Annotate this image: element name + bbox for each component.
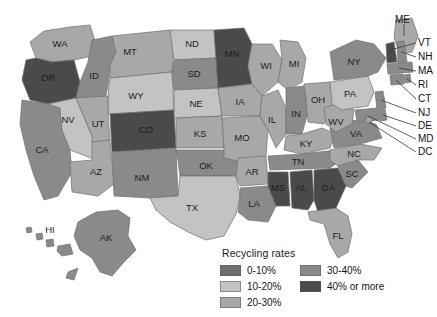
legend-column-right: 30-40% 40% or more	[300, 263, 384, 295]
legend-label-10-20: 10-20%	[247, 282, 281, 292]
legend-swatch-40-or-more	[300, 281, 321, 292]
legend-title: Recycling rates	[222, 247, 295, 259]
state-AL[interactable]	[290, 170, 314, 210]
state-CO[interactable]	[110, 110, 176, 152]
callout-line-DE	[383, 115, 416, 126]
label-HI: HI	[45, 224, 55, 235]
legend: Recycling rates 0-10% 10-20% 20-30% 30-4…	[216, 247, 396, 311]
callout-label-CT: CT	[418, 93, 431, 104]
state-NY[interactable]	[330, 40, 386, 80]
state-AK[interactable]	[66, 210, 136, 280]
state-KS[interactable]	[176, 116, 224, 148]
legend-swatch-20-30	[220, 297, 241, 308]
callout-label-ME: ME	[395, 14, 410, 25]
legend-swatch-30-40	[300, 265, 321, 276]
legend-item-0-10[interactable]: 0-10%	[220, 263, 281, 278]
state-DE[interactable]	[378, 109, 387, 121]
state-MN[interactable]	[214, 28, 252, 88]
state-NJ[interactable]	[375, 91, 386, 109]
state-PA[interactable]	[330, 76, 374, 110]
state-NE[interactable]	[174, 88, 222, 118]
state-CT[interactable]	[390, 74, 404, 85]
legend-swatch-0-10	[220, 265, 241, 276]
state-MT[interactable]	[110, 30, 174, 78]
state-ND[interactable]	[170, 30, 216, 60]
callout-line-NJ	[381, 100, 416, 113]
legend-column-left: 0-10% 10-20% 20-30%	[220, 263, 281, 311]
callout-label-NJ: NJ	[418, 107, 430, 118]
callout-label-RI: RI	[418, 79, 428, 90]
state-WY[interactable]	[108, 72, 174, 114]
legend-label-30-40: 30-40%	[327, 266, 361, 276]
state-SD[interactable]	[172, 58, 218, 90]
state-WA[interactable]	[30, 25, 96, 62]
state-HI[interactable]	[26, 227, 73, 256]
state-VT[interactable]	[386, 42, 397, 63]
legend-label-40-or-more: 40% or more	[327, 282, 384, 292]
us-recycling-rates-map: WA OR CA ID NV MT WY UT AZ CO NM ND SD N…	[0, 0, 437, 317]
state-OR[interactable]	[22, 58, 80, 104]
state-IN[interactable]	[286, 86, 308, 134]
legend-swatch-10-20	[220, 281, 241, 292]
callout-label-MD: MD	[418, 133, 434, 144]
legend-label-0-10: 0-10%	[247, 266, 276, 276]
callout-label-DC: DC	[418, 146, 432, 157]
legend-label-20-30: 20-30%	[247, 298, 281, 308]
callout-label-DE: DE	[418, 120, 432, 131]
callout-label-MA: MA	[418, 65, 433, 76]
state-MI[interactable]	[278, 40, 306, 90]
state-IA[interactable]	[218, 84, 262, 116]
legend-item-40-or-more[interactable]: 40% or more	[300, 279, 384, 294]
state-NM[interactable]	[112, 148, 178, 198]
state-AR[interactable]	[236, 156, 268, 186]
legend-item-30-40[interactable]: 30-40%	[300, 263, 384, 278]
legend-item-10-20[interactable]: 10-20%	[220, 279, 281, 294]
callout-label-VT: VT	[418, 37, 431, 48]
callout-label-NH: NH	[418, 51, 432, 62]
legend-item-20-30[interactable]: 20-30%	[220, 295, 281, 310]
state-RI[interactable]	[404, 74, 411, 83]
